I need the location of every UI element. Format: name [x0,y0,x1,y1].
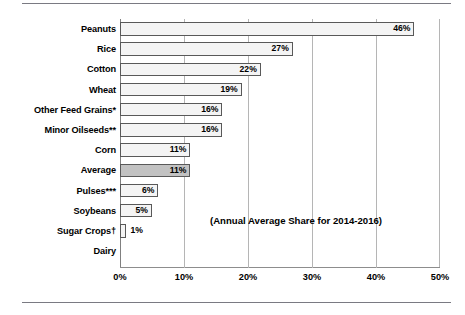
bar-value-label: 16% [120,103,218,117]
bar-value-label: 16% [120,123,218,137]
x-tick-label: 20% [239,272,257,282]
bar-row: Rice27% [120,39,440,59]
bar-row: Minor Oilseeds**16% [120,120,440,140]
bar-value-label: 11% [120,143,186,157]
x-tick-label: 10% [175,272,193,282]
x-tick-label: 40% [367,272,385,282]
bar-row: Average11% [120,160,440,180]
category-label: Cotton [0,59,116,79]
bar-value-label: 27% [120,42,289,56]
category-label: Average [0,160,116,180]
bar-row: Pulses***6% [120,181,440,201]
category-label: Soybeans [0,201,116,221]
x-axis-line [120,267,440,268]
x-tick-label: 30% [303,272,321,282]
category-label: Other Feed Grains* [0,100,116,120]
chart-annotation: (Annual Average Share for 2014-2016) [210,215,382,226]
bar-row: Peanuts46% [120,19,440,39]
category-label: Rice [0,39,116,59]
category-label: Pulses*** [0,181,116,201]
bar-row: Other Feed Grains*16% [120,100,440,120]
bar-row: Corn11% [120,140,440,160]
bar [120,224,126,238]
category-label: Minor Oilseeds** [0,120,116,140]
category-label: Dairy [0,241,116,261]
x-tick-label: 0% [113,272,126,282]
bar-value-label: 11% [120,164,186,178]
x-tick-label: 50% [431,272,449,282]
bar-value-label: 5% [120,204,148,218]
bar-value-label: 1% [130,224,142,238]
bar-row: Wheat19% [120,80,440,100]
category-label: Corn [0,140,116,160]
bar-value-label: 22% [120,63,257,77]
bar-value-label: 46% [120,22,410,36]
top-rule [22,3,451,4]
bottom-rule [22,302,451,303]
plot-area: Peanuts46%Rice27%Cotton22%Wheat19%Other … [120,19,440,268]
bar-row: Cotton22% [120,59,440,79]
bar-row: Dairy [120,241,440,261]
chart-figure: Peanuts46%Rice27%Cotton22%Wheat19%Other … [0,0,465,315]
bar-value-label: 19% [120,83,238,97]
bar-value-label: 6% [120,184,154,198]
category-label: Sugar Crops† [0,221,116,241]
category-label: Wheat [0,80,116,100]
category-label: Peanuts [0,19,116,39]
